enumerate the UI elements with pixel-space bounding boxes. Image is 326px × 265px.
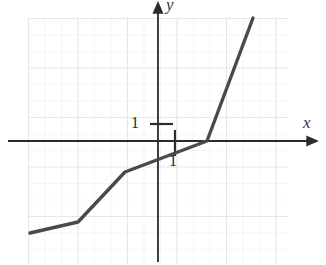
- axis-label-x: x: [303, 113, 311, 133]
- axis-label-y: y: [166, 0, 174, 15]
- graph-figure: x y 1 1: [0, 0, 326, 265]
- tick-label-x-unit: 1: [169, 152, 177, 170]
- tick-label-y-unit: 1: [131, 114, 139, 132]
- graph-canvas: [0, 0, 326, 265]
